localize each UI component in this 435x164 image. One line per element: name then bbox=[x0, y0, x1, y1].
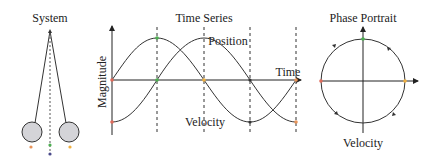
ts-marker-start-velocity bbox=[110, 120, 114, 124]
bob-right bbox=[59, 122, 79, 142]
phase-portrait-panel: Phase Portrait Velocity bbox=[319, 11, 418, 150]
velocity-label: Velocity bbox=[185, 115, 225, 129]
system-title: System bbox=[32, 11, 68, 25]
ts-marker-trough bbox=[248, 120, 251, 123]
phase-portrait-title: Phase Portrait bbox=[330, 11, 398, 25]
ts-marker-start-position bbox=[110, 78, 114, 82]
marker-bottom bbox=[48, 152, 51, 155]
system-panel: System bbox=[22, 11, 79, 156]
pendulum-string-right bbox=[50, 31, 66, 123]
ts-marker-cross bbox=[155, 78, 159, 82]
phase-y-label: Velocity bbox=[343, 136, 383, 150]
position-label: Position bbox=[208, 34, 247, 48]
time-series-title: Time Series bbox=[175, 11, 233, 25]
phase-marker-left bbox=[319, 79, 323, 83]
ts-marker-zero bbox=[202, 78, 206, 82]
marker-right-extreme bbox=[68, 145, 71, 148]
marker-equilibrium bbox=[48, 143, 51, 146]
ts-marker-peak bbox=[155, 36, 159, 40]
ts-marker-mid bbox=[248, 78, 251, 81]
pendulum-string-left bbox=[35, 31, 50, 123]
diagram-canvas: System Time Series Magnitude Time bbox=[0, 0, 435, 164]
time-series-panel: Time Series Magnitude Time Position Velo… bbox=[95, 11, 301, 135]
ts-marker-end-position bbox=[294, 78, 298, 82]
ts-marker-end-velocity bbox=[294, 120, 298, 124]
marker-left-extreme bbox=[29, 145, 32, 148]
phase-marker-top bbox=[361, 37, 365, 41]
bob-left bbox=[22, 122, 42, 142]
orbit-direction-arrows bbox=[332, 44, 396, 116]
x-axis-label: Time bbox=[276, 65, 301, 79]
phase-marker-right bbox=[403, 79, 407, 83]
y-axis-label: Magnitude bbox=[95, 56, 109, 108]
